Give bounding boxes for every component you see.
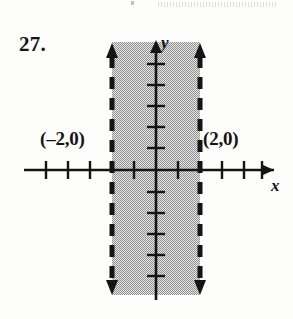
x-axis-label: x	[271, 176, 280, 196]
label-right-intercept: (2,0)	[203, 128, 238, 150]
y-axis-label: y	[161, 33, 169, 53]
coordinate-plot	[0, 0, 293, 319]
label-left-intercept: (–2,0)	[40, 128, 85, 150]
figure-page: 27.	[0, 0, 293, 319]
